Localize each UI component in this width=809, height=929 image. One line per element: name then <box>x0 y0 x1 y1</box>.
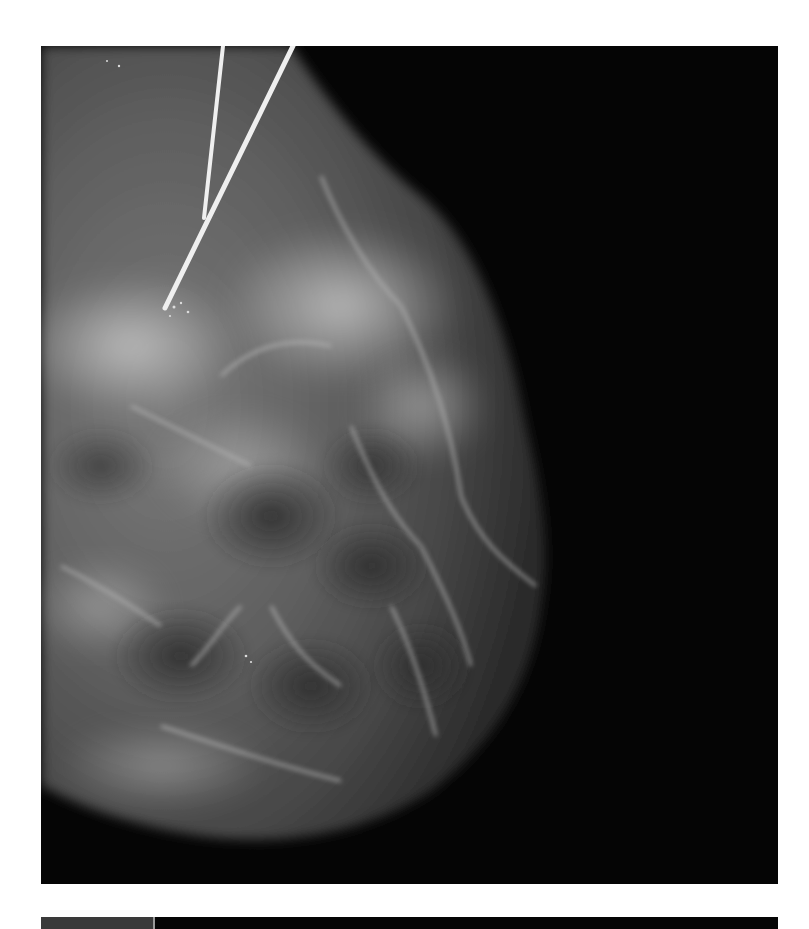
lower-image-wire <box>153 917 155 929</box>
lower-image-tissue-edge <box>41 917 153 929</box>
mammogram-graphic <box>41 46 778 884</box>
mammogram-image <box>41 46 778 884</box>
lower-mammogram-image <box>41 917 778 929</box>
